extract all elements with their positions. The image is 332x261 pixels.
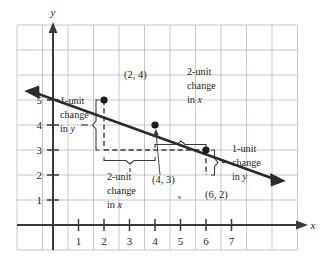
point-4-3[interactable] [151, 121, 158, 128]
x-tick-7: 7 [229, 235, 235, 247]
annotation-left-line2: change [60, 109, 89, 120]
annotation-upper-line1: 2-unit [187, 66, 212, 77]
annotation-lower-line3: in x [107, 199, 122, 210]
annotation-upper-line3-prefix: in [187, 94, 197, 105]
annotation-right-line3-prefix: in [232, 171, 242, 182]
point-label-4-3: (4, 3) [152, 174, 175, 186]
annotation-upper-line3: in x [187, 94, 202, 105]
x-tick-2: 2 [101, 235, 107, 247]
x-axis-label: x [310, 219, 316, 231]
annotation-lower-line2: change [107, 185, 136, 196]
annotation-right-line1: 1-unit [232, 143, 257, 154]
annotation-upper-line3-var: x [196, 94, 202, 105]
annotation-right-line3-var: y [241, 171, 247, 182]
annotation-upper-line2: change [187, 80, 216, 91]
x-tick-6: 6 [203, 235, 209, 247]
y-axis-label: y [50, 6, 56, 18]
scan-artifact-mark [178, 196, 181, 199]
annotation-left-line3: in y [60, 123, 75, 134]
x-tick-1: 1 [76, 235, 82, 247]
point-label-2-4: (2, 4) [124, 69, 147, 81]
annotation-right-line3: in y [232, 171, 247, 182]
y-tick-3: 3 [37, 144, 43, 156]
coordinate-graph-figure: x y 1 2 3 4 5 6 7 1 2 3 4 5 [0, 0, 332, 261]
annotation-lower-line1: 2-unit [107, 171, 132, 182]
point-2-4[interactable] [100, 96, 107, 103]
annotation-lower-line3-var: x [116, 199, 122, 210]
annotation-right-line2: change [232, 157, 261, 168]
annotation-left-line1: 1-unit [60, 95, 85, 106]
y-tick-1: 1 [37, 194, 43, 206]
y-tick-2: 2 [37, 169, 43, 181]
x-tick-5: 5 [178, 235, 184, 247]
figure-background [0, 0, 332, 261]
x-tick-4: 4 [152, 235, 158, 247]
annotation-left-line3-var: y [69, 123, 75, 134]
annotation-lower-line3-prefix: in [107, 199, 117, 210]
annotation-left-line3-prefix: in [60, 123, 70, 134]
y-tick-4: 4 [37, 119, 43, 131]
point-label-6-2: (6, 2) [205, 189, 228, 201]
x-tick-3: 3 [127, 235, 133, 247]
